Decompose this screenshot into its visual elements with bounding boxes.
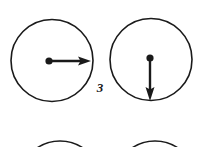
circle-bottom-left-clipped <box>19 141 101 147</box>
vector-arrow-down <box>146 58 155 101</box>
vector-arrow-right <box>49 57 91 66</box>
center-dot-left <box>45 57 52 64</box>
center-dot-right <box>146 54 153 61</box>
figure-number-label: 3 <box>92 79 108 97</box>
figure-canvas: 3 <box>0 0 205 147</box>
circle-bottom-right-clipped <box>114 141 196 147</box>
figure-illustration <box>0 0 205 147</box>
